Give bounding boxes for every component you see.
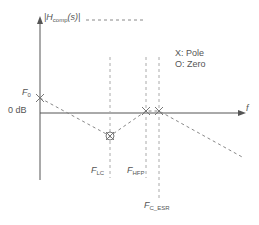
x-axis-arrow-icon xyxy=(238,110,246,116)
plot-canvas xyxy=(0,0,259,225)
fcesr-subscript: C_ESR xyxy=(150,205,170,211)
flc-subscript: LC xyxy=(97,170,105,176)
f0-subscript: 0 xyxy=(28,92,31,98)
x-axis xyxy=(40,110,246,116)
frequency-label-fcesr: FC_ESR xyxy=(144,201,170,211)
y-axis-arrow-icon xyxy=(37,16,43,24)
frequency-label-fhfp: FHFP xyxy=(127,166,145,176)
y-axis-f0-label: F0 xyxy=(22,88,31,98)
legend-pole-entry: X: Pole xyxy=(175,48,204,59)
plot-title-main: |H xyxy=(44,12,53,22)
marker-pole-flc xyxy=(106,132,114,140)
x-axis-frequency-label: f xyxy=(246,104,249,113)
gridlines xyxy=(110,57,159,199)
legend-zero-entry: O: Zero xyxy=(175,59,206,70)
frequency-label-flc: FLC xyxy=(91,166,104,176)
fhfp-subscript: HFP xyxy=(133,170,145,176)
plot-title-tail: (s)| xyxy=(68,12,81,22)
plot-title-subscript: comp xyxy=(53,17,68,23)
y-axis-zero-db-label: 0 dB xyxy=(8,106,27,115)
bode-plot-figure: |Hcomp(s)| 0 dB F0 f FLC FHFP FC_ESR X: … xyxy=(0,0,259,225)
plot-title: |Hcomp(s)| xyxy=(44,13,80,23)
